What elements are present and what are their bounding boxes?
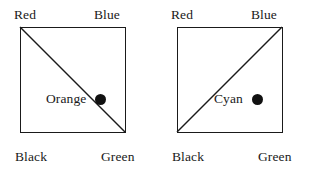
left-panel-corner-label-top-left: Red — [14, 7, 36, 22]
color-cube-face-diagram: Red Blue Orange Black Green Red Blue Cya… — [0, 0, 314, 175]
right-panel-point-label-cyan: Cyan — [214, 91, 243, 106]
left-panel-diagonal-line — [20, 27, 127, 134]
left-panel-point-label-orange: Orange — [46, 91, 86, 106]
right-panel-corner-label-bottom-left: Black — [172, 149, 204, 164]
left-panel-corner-label-top-right: Blue — [94, 7, 120, 22]
right-panel-corner-label-bottom-right: Green — [258, 149, 291, 164]
left-panel: Red Blue Orange Black Green — [0, 0, 157, 175]
left-panel-point-marker — [95, 94, 106, 105]
left-panel-corner-label-bottom-right: Green — [101, 149, 134, 164]
right-panel-diagonal-line — [177, 27, 284, 134]
left-panel-corner-label-bottom-left: Black — [15, 149, 47, 164]
right-panel: Red Blue Cyan Black Green — [157, 0, 314, 175]
right-panel-corner-label-top-right: Blue — [251, 7, 277, 22]
right-panel-point-marker — [252, 94, 263, 105]
right-panel-corner-label-top-left: Red — [171, 7, 193, 22]
